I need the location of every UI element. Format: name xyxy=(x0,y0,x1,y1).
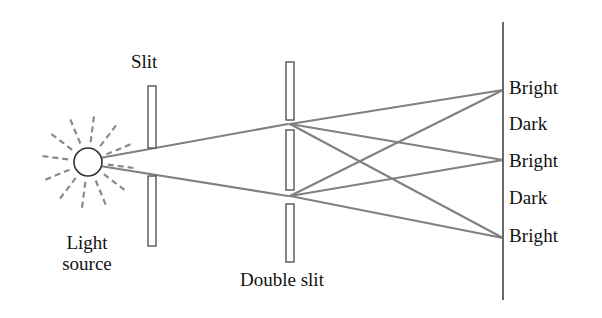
single-slit-upper-barrier xyxy=(148,86,156,148)
interference-ray-5 xyxy=(290,160,503,196)
barrier-group xyxy=(148,62,294,262)
screen-band-label-5: Bright xyxy=(509,226,558,246)
screen-band-label-4: Dark xyxy=(509,188,547,208)
light-source-label-line1: Light xyxy=(37,232,137,253)
light-source-bulb xyxy=(74,148,102,176)
slit-label: Slit xyxy=(131,52,157,72)
interference-ray-6 xyxy=(290,196,503,238)
source-ray-2 xyxy=(100,166,288,196)
double-slit-diagram: Slit Double slit Light source BrightDark… xyxy=(0,0,602,318)
light-source-ray xyxy=(69,116,81,144)
screen-band-label-1: Bright xyxy=(509,78,558,98)
light-source-ray xyxy=(100,122,118,146)
screen-band-label-3: Bright xyxy=(509,151,558,171)
single-slit-lower-barrier xyxy=(148,176,156,246)
light-source-label-line2: source xyxy=(37,253,137,274)
light-ray-group xyxy=(100,90,503,238)
light-source-ray xyxy=(104,174,128,192)
double-slit-barrier-2 xyxy=(286,130,294,190)
light-source-ray xyxy=(38,156,68,160)
light-source-ray xyxy=(96,181,108,209)
double-slit-label: Double slit xyxy=(240,270,324,290)
light-source-ray xyxy=(91,112,95,142)
screen-band-label-2: Dark xyxy=(509,114,547,134)
double-slit-barrier-1 xyxy=(286,62,294,120)
light-source-ray xyxy=(42,170,70,182)
source-ray-1 xyxy=(100,124,288,158)
double-slit-barrier-3 xyxy=(286,204,294,262)
light-source-ray xyxy=(48,132,72,150)
light-source-ray xyxy=(58,178,76,202)
light-source-ray xyxy=(82,182,86,212)
light-source-label: Light source xyxy=(37,232,137,275)
